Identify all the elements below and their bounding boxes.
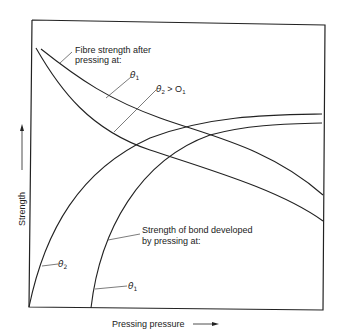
x-axis-arrow-head	[212, 322, 219, 326]
leader-fibre-theta1	[106, 77, 131, 98]
leader-fibre-theta2	[114, 90, 156, 132]
curve-bond-theta2	[29, 114, 322, 307]
y-axis-label: Strength	[17, 192, 27, 226]
curve-fibre-theta2	[36, 48, 323, 221]
leader-fibre-title	[60, 52, 72, 63]
leader-bond-theta1	[95, 286, 127, 289]
bond-theta1-label: θ1	[128, 281, 137, 294]
bond-title-line1: Strength of bond developed	[142, 225, 253, 235]
fibre-theta1-label: θ1	[130, 70, 139, 83]
fibre-theta2-label: θ2 > O1	[156, 84, 185, 97]
fibre-title-line1: Fibre strength after	[75, 45, 151, 55]
leader-bond-theta2	[42, 264, 58, 266]
diagram-canvas	[0, 0, 342, 336]
bond-theta2-label: θ2	[58, 259, 67, 272]
fibre-title-line2: pressing at:	[75, 55, 122, 65]
curve-fibre-theta1	[41, 49, 323, 195]
bond-title-line2: by pressing at:	[142, 236, 201, 246]
leader-bond-title	[108, 234, 140, 240]
y-axis-arrow-head	[20, 124, 24, 131]
x-axis-label: Pressing pressure	[112, 319, 185, 329]
